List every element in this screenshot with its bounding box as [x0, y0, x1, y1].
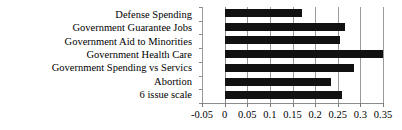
- bar-row: [202, 77, 383, 90]
- category-label-defense-spending: Defense Spending: [0, 9, 197, 20]
- category-label-government-spending-vs-servics: Government Spending vs Servics: [0, 62, 197, 73]
- x-tick-label: 0: [222, 109, 227, 121]
- category-label-6-issue-scale: 6 issue scale: [0, 89, 197, 100]
- x-tick-label: 0.1: [263, 109, 276, 121]
- category-label-government-health-care: Government Health Care: [0, 49, 197, 60]
- x-tick-label: 0.3: [354, 109, 367, 121]
- x-tick-label: -0.05: [191, 109, 213, 121]
- category-label-abortion: Abortion: [0, 76, 197, 87]
- x-tick: [202, 103, 203, 107]
- bar-row: [202, 49, 383, 62]
- x-tick: [383, 103, 384, 107]
- x-axis-tick-labels: -0.0500.050.10.150.20.250.30.35: [0, 109, 402, 125]
- bar: [225, 9, 302, 17]
- plot-area: [202, 7, 383, 103]
- y-tick: [199, 34, 202, 35]
- x-tick-label: 0.05: [238, 109, 256, 121]
- y-tick: [199, 7, 202, 8]
- gridline-0p35: [383, 7, 384, 103]
- y-tick: [199, 62, 202, 63]
- bar: [225, 23, 346, 31]
- x-tick-label: 0.2: [309, 109, 322, 121]
- bar-row: [202, 22, 383, 35]
- y-tick: [199, 89, 202, 90]
- x-tick: [360, 103, 361, 107]
- x-tick: [225, 103, 226, 107]
- category-label-government-aid-to-minorities: Government Aid to Minorities: [0, 36, 197, 47]
- y-tick: [199, 76, 202, 77]
- bar: [225, 78, 331, 86]
- x-tick-label: 0.25: [329, 109, 347, 121]
- y-tick: [199, 21, 202, 22]
- bars-layer: [202, 7, 383, 103]
- x-tick: [338, 103, 339, 107]
- bar: [225, 50, 383, 58]
- bar-chart-figure: Defense Spending Government Guarantee Jo…: [0, 0, 402, 130]
- bar-row: [202, 90, 383, 103]
- category-label-government-guarantee-jobs: Government Guarantee Jobs: [0, 22, 197, 33]
- y-tick: [199, 48, 202, 49]
- x-tick: [293, 103, 294, 107]
- bar-row: [202, 35, 383, 48]
- x-tick: [315, 103, 316, 107]
- x-tick: [270, 103, 271, 107]
- y-tick: [199, 103, 202, 104]
- bar: [225, 64, 354, 72]
- bar: [225, 36, 341, 44]
- category-axis: Defense Spending Government Guarantee Jo…: [0, 9, 197, 100]
- x-tick: [247, 103, 248, 107]
- x-tick-label: 0.35: [374, 109, 392, 121]
- bar-row: [202, 8, 383, 21]
- x-tick-label: 0.15: [283, 109, 301, 121]
- bar: [225, 91, 343, 99]
- bar-row: [202, 63, 383, 76]
